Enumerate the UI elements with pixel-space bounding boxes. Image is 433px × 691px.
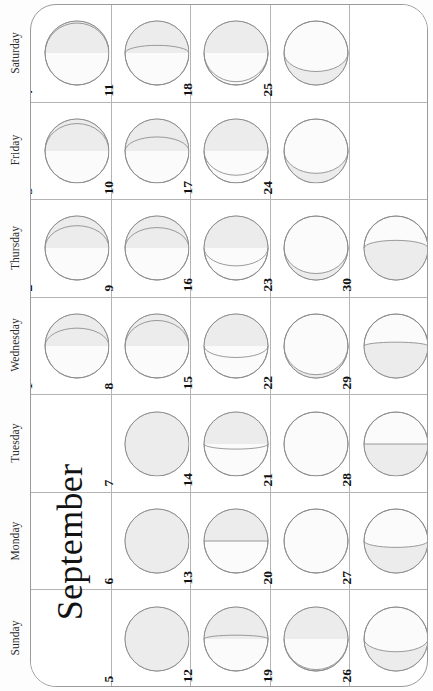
day-name-header-thursday: Thursday [0,199,30,297]
date-number: 2 [30,285,34,292]
date-number: 16 [181,278,195,292]
date-number: 17 [181,181,195,195]
week-column-4: 25242322212019 [270,5,350,687]
date-number: 13 [181,571,195,585]
day-cell-3[interactable]: 3 [31,103,111,201]
moon-phase-icon [363,606,428,672]
day-cell-12[interactable]: 12 [191,590,270,687]
week-column-5: 3029282726 [349,5,428,687]
day-cell-empty [350,5,428,103]
moon-phase-icon [204,313,270,379]
date-number: 5 [101,676,115,683]
moon-phase-icon [363,313,428,379]
date-number: 21 [260,473,274,487]
day-cell-6[interactable]: 6 [112,493,191,591]
date-number: 3 [30,187,34,194]
day-cell-10[interactable]: 10 [112,103,191,201]
day-name-label: Monday [9,521,21,560]
moon-phase-icon [124,606,190,672]
date-number: 25 [260,83,274,97]
day-cell-29[interactable]: 29 [350,298,428,396]
moon-phase-icon [44,20,110,86]
moon-phase-icon [204,20,270,86]
date-number: 26 [340,669,354,683]
day-name-header-friday: Friday [0,102,30,200]
moon-phase-icon [283,20,349,86]
day-cell-15[interactable]: 15 [191,298,270,396]
date-number: 10 [101,181,115,195]
day-cell-11[interactable]: 11 [112,5,191,103]
moon-phase-icon [283,216,349,282]
day-name-label: Tuesday [9,423,21,462]
moon-phase-icon [44,216,110,282]
day-name-header-wednesday: Wednesday [0,297,30,395]
day-cell-24[interactable]: 24 [271,103,350,201]
date-number: 22 [260,376,274,390]
date-number: 9 [101,285,115,292]
date-number: 29 [340,376,354,390]
day-cell-18[interactable]: 18 [191,5,270,103]
day-cell-4[interactable]: 4 [31,5,111,103]
moon-phase-icon [363,508,428,574]
day-name-header-strip: SaturdayFridayThursdayWednesdayTuesdayMo… [0,0,30,691]
date-number: 30 [340,278,354,292]
date-number: 6 [101,578,115,585]
day-cell-1[interactable]: 1 [31,298,111,396]
day-cell-2[interactable]: 2 [31,200,111,298]
day-name-label: Saturday [9,32,21,74]
moon-phase-icon [204,606,270,672]
date-number: 19 [260,669,274,683]
day-cell-empty [31,395,111,493]
day-name-header-tuesday: Tuesday [0,394,30,492]
day-name-label: Friday [9,135,21,166]
moon-phase-icon [44,313,110,379]
moon-phase-icon [363,216,428,282]
date-number: 24 [260,181,274,195]
day-name-label: Sunday [9,621,21,656]
day-cell-empty [350,103,428,201]
date-number: 14 [181,473,195,487]
moon-phase-icon [44,118,110,184]
day-cell-8[interactable]: 8 [112,298,191,396]
date-number: 27 [340,571,354,585]
date-number: 15 [181,376,195,390]
day-cell-17[interactable]: 17 [191,103,270,201]
day-cell-27[interactable]: 27 [350,493,428,591]
moon-phase-icon [124,20,190,86]
day-cell-28[interactable]: 28 [350,395,428,493]
date-number: 18 [181,83,195,97]
moon-phase-icon [283,606,349,672]
moon-phase-icon [124,216,190,282]
moon-phase-icon [283,118,349,184]
day-cell-7[interactable]: 7 [112,395,191,493]
day-cell-empty [31,493,111,591]
moon-phase-icon [283,313,349,379]
day-cell-13[interactable]: 13 [191,493,270,591]
moon-phase-icon [283,508,349,574]
day-cell-14[interactable]: 14 [191,395,270,493]
week-column-2: 111098765 [111,5,191,687]
day-cell-25[interactable]: 25 [271,5,350,103]
calendar-grid: 4321111098765181716151413122524232221201… [30,4,428,687]
moon-phase-icon [124,313,190,379]
day-name-header-saturday: Saturday [0,4,30,102]
date-number: 4 [30,90,34,97]
moon-phase-icon [204,508,270,574]
moon-phase-icon [204,118,270,184]
day-cell-26[interactable]: 26 [350,590,428,687]
date-number: 8 [101,383,115,390]
moon-phase-icon [124,508,190,574]
day-name-header-monday: Monday [0,492,30,590]
date-number: 1 [30,383,34,390]
moon-phase-icon [363,411,428,477]
date-number: 12 [181,669,195,683]
day-cell-5[interactable]: 5 [112,590,191,687]
moon-phase-icon [204,216,270,282]
day-cell-9[interactable]: 9 [112,200,191,298]
day-name-header-sunday: Sunday [0,589,30,687]
week-column-1: 4321 [31,5,111,687]
day-cell-16[interactable]: 16 [191,200,270,298]
moon-phase-icon [283,411,349,477]
week-column-3: 18171615141312 [190,5,270,687]
day-cell-30[interactable]: 30 [350,200,428,298]
